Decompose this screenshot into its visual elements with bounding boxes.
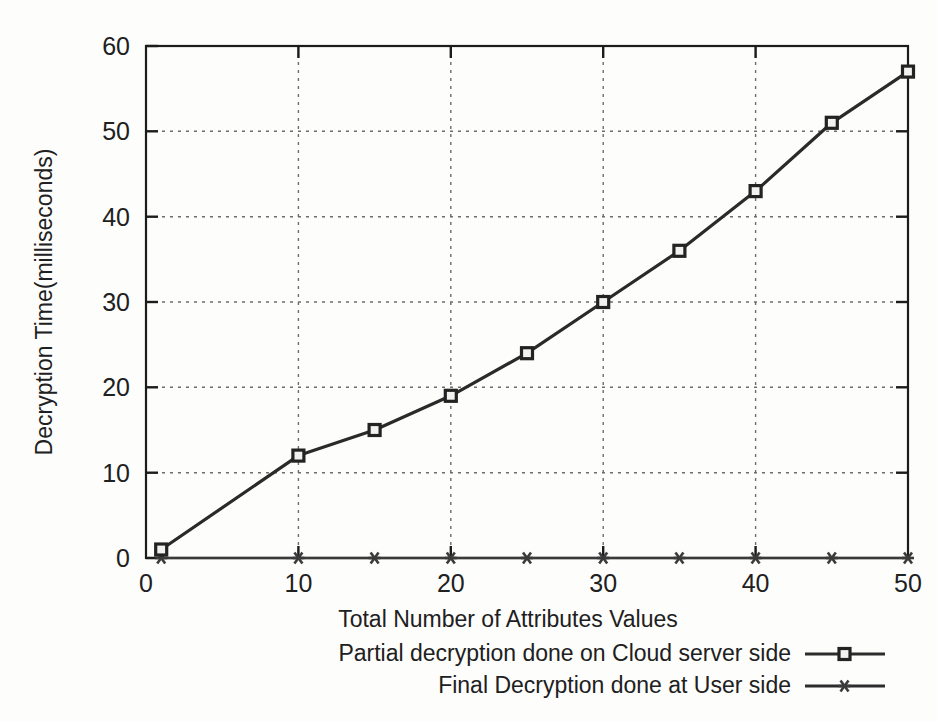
series-1-marker-x45 [826,117,837,128]
x-axis-title: Total Number of Attributes Values [338,606,678,632]
series-1-marker-x40 [750,186,761,197]
legend-label-series-2: Final Decryption done at User side [438,672,791,698]
series-1-marker-x15 [369,425,380,436]
y-tick-label-10: 10 [102,459,130,487]
y-axis-title: Decryption Time(milliseconds) [31,149,57,456]
y-tick-label-30: 30 [102,288,130,316]
x-tick-label-20: 20 [437,569,465,597]
x-tick-label-30: 30 [589,569,617,597]
y-tick-label-50: 50 [102,117,130,145]
series-1-marker-x35 [674,245,685,256]
chart-canvas: 0 10 20 30 40 50 60 0 10 20 30 40 50 Dec… [0,0,937,721]
decryption-time-line-chart: 0 10 20 30 40 50 60 0 10 20 30 40 50 Dec… [0,0,937,721]
y-tick-label-60: 60 [102,32,130,60]
y-tick-label-20: 20 [102,373,130,401]
x-tick-label-0: 0 [139,569,153,597]
series-1-marker-x10 [293,450,304,461]
y-tick-label-0: 0 [116,544,130,572]
series-1-marker-x30 [598,297,609,308]
x-tick-label-50: 50 [894,569,922,597]
chart-page: 0 10 20 30 40 50 60 0 10 20 30 40 50 Dec… [0,0,937,721]
series-1-marker-x20 [445,390,456,401]
y-tick-label-40: 40 [102,203,130,231]
x-tick-label-40: 40 [742,569,770,597]
x-tick-label-10: 10 [284,569,312,597]
legend-label-series-1: Partial decryption done on Cloud server … [338,640,791,666]
series-1-marker-x25 [522,348,533,359]
series-1-marker-x1 [156,544,167,555]
series-1-marker-x50 [903,66,914,77]
